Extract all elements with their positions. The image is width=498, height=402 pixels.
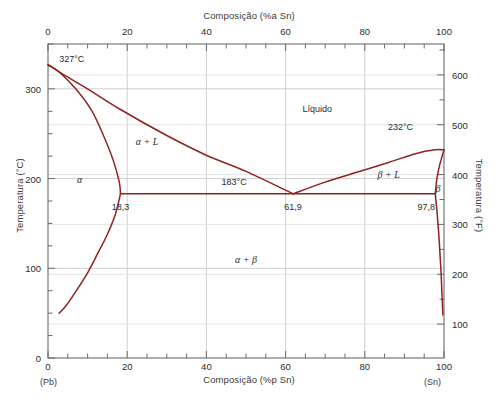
region-label: Líquido xyxy=(303,104,333,114)
phase-boundary-liquidus-beta xyxy=(293,150,444,194)
y-tick-label-right: 300 xyxy=(452,219,485,230)
x-tick-label-top: 0 xyxy=(45,26,50,37)
x-tick-label-bottom: 0 xyxy=(45,361,50,372)
point-label: 232°C xyxy=(388,122,413,132)
point-label: 327°C xyxy=(59,54,84,64)
y-tick-label-left: 100 xyxy=(8,263,41,274)
region-label: β + L xyxy=(377,169,399,180)
y-tick-label-right: 500 xyxy=(452,119,485,130)
x-tick-label-bottom: 20 xyxy=(122,361,133,372)
x-tick-label-top: 40 xyxy=(201,26,212,37)
x-tick-label-bottom: 60 xyxy=(280,361,291,372)
x-tick-label-bottom: 100 xyxy=(436,361,452,372)
y-tick-label-left: 200 xyxy=(8,173,41,184)
region-label: β xyxy=(436,182,441,193)
plot-frame xyxy=(48,44,444,358)
point-label: 183°C xyxy=(222,177,247,187)
y-tick-label-left: 0 xyxy=(8,353,41,364)
region-label: α + L xyxy=(136,135,159,146)
x-tick-label-top: 60 xyxy=(280,26,291,37)
y-tick-label-right: 200 xyxy=(452,269,485,280)
region-label: α xyxy=(77,173,82,184)
y-tick-label-right: 100 xyxy=(452,319,485,330)
y-tick-label-right: 400 xyxy=(452,169,485,180)
phase-diagram-figure: Composição (%a Sn) Composição (%p Sn) Te… xyxy=(0,0,498,402)
point-label: 61,9 xyxy=(284,202,302,212)
phase-boundary-solvus-beta xyxy=(435,194,443,315)
x-tick-label-top: 100 xyxy=(436,26,452,37)
region-label: α + β xyxy=(235,254,257,265)
point-label: 18,3 xyxy=(112,202,130,212)
x-tick-label-bottom: 80 xyxy=(360,361,371,372)
x-tick-label-top: 80 xyxy=(360,26,371,37)
y-tick-label-right: 600 xyxy=(452,69,485,80)
point-label: 97,8 xyxy=(417,202,435,212)
x-tick-label-bottom: 40 xyxy=(201,361,212,372)
y-tick-label-left: 300 xyxy=(8,83,41,94)
x-tick-label-top: 20 xyxy=(122,26,133,37)
